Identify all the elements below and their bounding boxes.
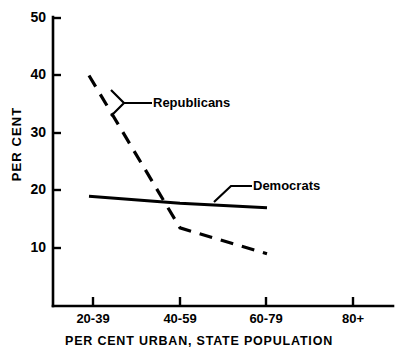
series-line-democrats	[89, 196, 267, 208]
chart-canvas	[0, 0, 398, 354]
series-line-republicans	[89, 76, 267, 254]
leader-line-republicans	[111, 90, 152, 116]
chart-figure: 50 40 30 20 10 20-39 40-59 60-79 80+ Rep…	[0, 0, 398, 354]
leader-line-democrats	[214, 186, 252, 202]
x-axis-ticks	[93, 297, 353, 306]
